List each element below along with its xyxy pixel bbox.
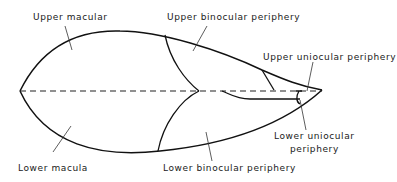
label-upper-uniocular: Upper uniocular periphery <box>263 52 396 62</box>
label-lower-macula: Lower macula <box>18 163 88 173</box>
leader-upper-macular <box>65 26 72 50</box>
leader-lower-binocular <box>206 132 212 161</box>
lower-binocular-boundary <box>158 91 199 151</box>
uniocular-bracket <box>296 91 302 104</box>
label-lower-uniocular-1: Lower uniocular <box>274 131 355 141</box>
label-upper-binocular: Upper binocular periphery <box>167 12 300 22</box>
label-lower-binocular: Lower binocular periphery <box>163 163 296 173</box>
leader-upper-uniocular <box>307 62 313 91</box>
leader-lower-macula <box>53 126 71 152</box>
label-lower-uniocular-2: periphery <box>290 144 339 154</box>
label-upper-macular: Upper macular <box>33 12 108 22</box>
visual-field-diagram: Upper macular Upper binocular periphery … <box>0 0 397 182</box>
uniocular-boundary <box>222 91 300 99</box>
